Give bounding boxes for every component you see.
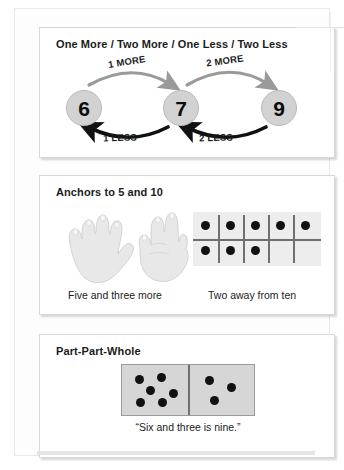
caption-five-and-three-more: Five and three more (68, 289, 162, 301)
ten-frame-dot (251, 221, 260, 230)
domino-illustration (121, 364, 255, 416)
ten-frame-dot (201, 221, 210, 230)
domino-dot-left (158, 398, 167, 407)
ten-frame-dot (226, 221, 235, 230)
reference-card-page: One More / Two More / One Less / Two Les… (14, 8, 330, 456)
section-anchors: Anchors to 5 and 10 (39, 175, 335, 315)
ten-frame-horizontal-line (193, 239, 321, 241)
page-bottom-rule (37, 451, 315, 455)
number-circle-9: 9 (261, 90, 297, 126)
domino-divider (188, 365, 190, 415)
edge-rule-horizontal (296, 27, 344, 28)
hands-svg (56, 202, 200, 286)
ten-frame-grid (193, 212, 321, 266)
arrow-two-more (187, 72, 268, 85)
caption-six-and-three-is-nine: “Six and three is nine.” (114, 421, 262, 433)
domino-tile (121, 364, 255, 416)
number-circle-7: 7 (163, 90, 199, 126)
section-part-part-whole: Part-Part-Whole “Six and three is nine.” (39, 334, 335, 458)
domino-dot-right (205, 376, 214, 385)
section-title-part-part-whole: Part-Part-Whole (56, 345, 141, 357)
edge-rule-vertical (330, 12, 331, 72)
ten-frame-dot (276, 221, 285, 230)
ten-frame-dot (301, 221, 310, 230)
ten-frame-vertical-line (293, 215, 295, 263)
number-circle-6: 6 (66, 90, 102, 126)
domino-dot-right (227, 383, 236, 392)
ten-frame (193, 212, 321, 266)
domino-dot-left (146, 386, 155, 395)
domino-dot-left (135, 375, 144, 384)
ten-frame-dot (251, 246, 260, 255)
section-one-more-two-more: One More / Two More / One Less / Two Les… (39, 27, 335, 158)
domino-dot-left (157, 373, 166, 382)
ten-frame-vertical-line (218, 215, 220, 263)
number-line-diagram: 6 7 9 1 MORE 2 MORE 1 LESS 2 LESS (40, 28, 334, 157)
hands-illustration (56, 202, 200, 286)
caption-two-away-from-ten: Two away from ten (208, 289, 296, 301)
arrow-label-one-less: 1 LESS (103, 131, 137, 143)
ten-frame-vertical-line (243, 215, 245, 263)
ten-frame-dot (226, 246, 235, 255)
arrow-one-more (89, 73, 170, 85)
section-title-anchors: Anchors to 5 and 10 (56, 186, 163, 198)
arrow-label-two-less: 2 LESS (199, 131, 233, 143)
ten-frame-dot (201, 246, 210, 255)
domino-dot-left (136, 398, 145, 407)
ten-frame-vertical-line (268, 215, 270, 263)
left-hand-five-fingers (69, 215, 133, 283)
domino-dot-right (210, 396, 219, 405)
domino-dot-left (169, 389, 178, 398)
right-hand-three-fingers (139, 213, 188, 282)
